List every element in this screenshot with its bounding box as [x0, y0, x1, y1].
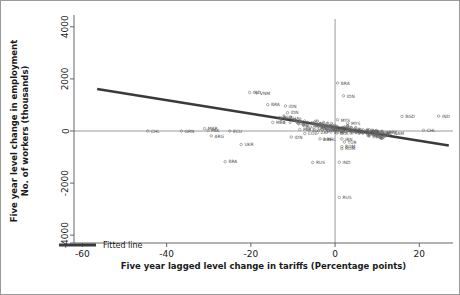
chart-svg: -4000-2000020004000-60-40-20020Five year… [1, 1, 460, 295]
scatter-point-label: BRA [341, 81, 350, 86]
scatter-point-label: CHL [427, 128, 436, 133]
scatter-plot: -4000-2000020004000-60-40-20020Five year… [1, 1, 460, 295]
scatter-point [319, 138, 322, 141]
legend: Fitted line [59, 241, 143, 250]
y-tick-label: 0 [61, 128, 71, 134]
y-tick-label: -2000 [61, 170, 71, 196]
x-tick-label: 0 [332, 249, 338, 259]
scatter-point [341, 138, 344, 141]
scatter-point [338, 196, 341, 199]
scatter-point [338, 161, 341, 164]
scatter-point [210, 135, 213, 138]
figure-frame: -4000-2000020004000-60-40-20020Five year… [0, 0, 460, 295]
scatter-point-label: BRA [228, 159, 237, 164]
x-tick-label: 20 [414, 249, 426, 259]
scatter-point-label: BRA [271, 102, 280, 107]
scatter-point-label: NAM [394, 131, 404, 136]
scatter-point-label: UKR [244, 142, 253, 147]
scatter-point-label: IDN [347, 94, 355, 99]
scatter-point [290, 136, 293, 139]
x-tick-label: -20 [244, 249, 259, 259]
scatter-point-label: ARG [214, 134, 224, 139]
scatter-point-label: ROM [345, 146, 356, 151]
x-axis-title: Five year lagged level change in tariffs… [121, 261, 407, 271]
x-tick-label: -60 [75, 249, 90, 259]
scatter-point-label: PHL [327, 137, 336, 142]
scatter-point-label: PAK [211, 128, 219, 133]
scatter-point [336, 82, 339, 85]
scatter-point [298, 128, 301, 131]
scatter-point [272, 121, 275, 124]
scatter-point-label: CHL [151, 129, 160, 134]
legend-label-fitted-line: Fitted line [103, 241, 143, 250]
scatter-point-label: MEX [276, 120, 286, 125]
scatter-point-label: TUR [347, 140, 357, 145]
axes [70, 15, 453, 243]
scatter-point-label: RUS [343, 195, 352, 200]
scatter-point-label: IDN [289, 104, 297, 109]
scatter-point-label: IND [442, 114, 451, 119]
scatter-point [342, 95, 345, 98]
fitted-line [97, 89, 449, 146]
scatter-point-label: BGD [405, 114, 415, 119]
scatter-point [224, 160, 227, 163]
scatter-point-label: VNM [260, 91, 270, 96]
y-axis-title-line2: No. of workers (thousands) [20, 66, 30, 197]
y-tick-label: 4000 [61, 15, 71, 38]
scatter-point-label: IND [343, 160, 352, 165]
scatter-point [336, 119, 339, 122]
scatter-point [240, 143, 243, 146]
scatter-point [304, 132, 307, 135]
scatter-point [284, 105, 287, 108]
scatter-point-label: IDN [294, 135, 302, 140]
scatter-point-label: MYS [351, 121, 360, 126]
scatter-point [401, 115, 404, 118]
scatter-point-label: GRN [185, 129, 195, 134]
y-tick-label: 2000 [61, 67, 71, 90]
scatter-point-label: ECU [233, 129, 242, 134]
scatter-point [437, 115, 440, 118]
x-tick-label: -40 [159, 249, 174, 259]
scatter-points: INDVNMBRAIDNIDNBGDGHAMEXBRAIDNBGDINDMYSM… [146, 81, 450, 200]
scatter-point [289, 122, 291, 124]
scatter-point [286, 112, 289, 115]
scatter-point-label: RUS [316, 160, 325, 165]
scatter-point [248, 91, 251, 94]
scatter-point-label: MYS [341, 118, 350, 123]
scatter-point [312, 161, 315, 164]
y-axis-title-line1: Five year level change in employment [9, 40, 19, 222]
y-axis-ticks: -4000-2000020004000 [61, 15, 75, 248]
scatter-point [203, 127, 206, 130]
scatter-point [266, 103, 269, 106]
scatter-point [299, 118, 301, 120]
scatter-point-label: GHA [289, 116, 299, 121]
